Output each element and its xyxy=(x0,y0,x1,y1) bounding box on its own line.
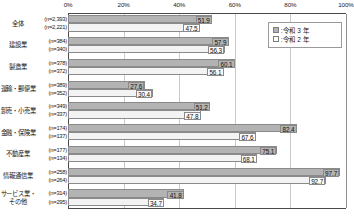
bar[interactable]: 82.4 xyxy=(68,124,297,132)
sample-size-label: (n=134) xyxy=(36,154,67,162)
bar-track: 51.2 xyxy=(68,102,346,110)
legend-item[interactable]: :令和 3 年 xyxy=(273,26,338,35)
bar[interactable]: 60.1 xyxy=(68,59,235,67)
category-label: 卸売・小売業 xyxy=(0,107,36,114)
x-axis-tick-label: 0% xyxy=(64,1,73,8)
sample-size-label: (n=352) xyxy=(36,89,67,97)
sample-size-label: (n=2,221) xyxy=(36,23,67,31)
bar-track: 92.7 xyxy=(68,176,346,184)
sample-size-label: (n=378) xyxy=(36,59,67,67)
bar[interactable]: 92.7 xyxy=(68,176,326,184)
bar-row-group: 運輸・郵便業(n=389)27.6(n=352)30.4 xyxy=(0,78,350,100)
sample-size-label: (n=389) xyxy=(36,81,67,89)
sample-size-label: (n=177) xyxy=(36,146,67,154)
legend-label: 令和 2 年 xyxy=(283,35,308,44)
bar-track: 68.1 xyxy=(68,154,346,162)
bar[interactable]: 97.7 xyxy=(68,168,340,176)
category-label: サービス業・ その他 xyxy=(0,190,36,205)
bar-row-group: 不動産業(n=177)75.1(n=134)68.1 xyxy=(0,143,350,165)
legend-swatch-previous-year xyxy=(273,36,279,42)
legend-swatch-current-year xyxy=(273,27,279,33)
sample-size-label: (n=349) xyxy=(36,102,67,110)
bar-track: 30.4 xyxy=(68,89,346,97)
bar-track: 56.1 xyxy=(68,67,346,75)
x-axis-tick-label: 60% xyxy=(229,1,241,8)
category-label: 金融・保険業 xyxy=(0,129,36,136)
bar[interactable]: 41.8 xyxy=(68,189,184,197)
category-label: 全体 xyxy=(0,20,36,27)
chart-legend: :令和 3 年:令和 2 年 xyxy=(268,22,342,48)
sample-size-label: (n=372) xyxy=(36,67,67,75)
bar-track: 67.6 xyxy=(68,132,346,140)
bar-track: 82.4 xyxy=(68,124,346,132)
sample-size-label: (n=2,393) xyxy=(36,15,67,23)
category-label: 製造業 xyxy=(0,63,36,70)
legend-item[interactable]: :令和 2 年 xyxy=(273,35,338,44)
x-axis-tick-label: 80% xyxy=(284,1,296,8)
bar[interactable]: 68.1 xyxy=(68,154,257,162)
bar[interactable]: 51.2 xyxy=(68,102,210,110)
x-axis-tick-label: 40% xyxy=(173,1,185,8)
legend-label: 令和 3 年 xyxy=(283,26,308,35)
bar-track: 34.7 xyxy=(68,198,346,206)
bar-value-label: 56.1 xyxy=(207,68,223,76)
bar-track: 97.7 xyxy=(68,168,346,176)
sample-size-label: (n=384) xyxy=(36,37,67,45)
category-label: 不動産業 xyxy=(0,150,36,157)
category-label: 運輸・郵便業 xyxy=(0,85,36,92)
bar-value-label: 47.5 xyxy=(183,24,199,32)
bar-value-label: 47.8 xyxy=(184,112,200,120)
x-axis-tick-labels: 0%20%40%60%80%100% xyxy=(0,1,350,12)
bar-row-group: 卸売・小売業(n=349)51.2(n=337)47.8 xyxy=(0,100,350,122)
bar[interactable]: 47.8 xyxy=(68,110,201,118)
bar[interactable]: 57.9 xyxy=(68,37,229,45)
bar[interactable]: 56.1 xyxy=(68,67,224,75)
sample-size-label: (n=337) xyxy=(36,110,67,118)
x-axis-tick-label: 20% xyxy=(118,1,130,8)
bar-track: 75.1 xyxy=(68,146,346,154)
bar-row-group: 情報通信業(n=258)97.7(n=264)92.7 xyxy=(0,165,350,187)
legend-colon: : xyxy=(281,27,283,34)
category-label: 建設業 xyxy=(0,41,36,48)
bar-row-group: 金融・保険業(n=174)82.4(n=137)67.6 xyxy=(0,121,350,143)
category-label: 情報通信業 xyxy=(0,172,36,179)
sample-size-label: (n=295) xyxy=(36,198,67,206)
bar-value-label: 30.4 xyxy=(136,90,152,98)
bar-value-label: 34.7 xyxy=(148,199,164,207)
bar[interactable]: 47.5 xyxy=(68,23,200,31)
bar[interactable]: 67.6 xyxy=(68,132,256,140)
bar-track: 47.8 xyxy=(68,110,346,118)
bar-value-label: 56.3 xyxy=(208,46,224,54)
sample-size-label: (n=264) xyxy=(36,176,67,184)
bar-value-label: 92.7 xyxy=(309,177,325,185)
bar[interactable]: 27.6 xyxy=(68,81,145,89)
bar-row-group: サービス業・ その他(n=314)41.8(n=295)34.7 xyxy=(0,187,350,209)
sample-size-label: (n=314) xyxy=(36,189,67,197)
bar[interactable]: 51.9 xyxy=(68,15,212,23)
bar[interactable]: 56.3 xyxy=(68,45,225,53)
bar-track: 60.1 xyxy=(68,59,346,67)
bar[interactable]: 30.4 xyxy=(68,89,153,97)
sample-size-label: (n=137) xyxy=(36,132,67,140)
bar[interactable]: 75.1 xyxy=(68,146,277,154)
sample-size-label: (n=340) xyxy=(36,45,67,53)
bar-value-label: 68.1 xyxy=(241,155,257,163)
bar-value-label: 67.6 xyxy=(239,133,255,141)
bar[interactable]: 34.7 xyxy=(68,198,164,206)
x-axis-tick-label: 100% xyxy=(338,1,353,8)
sample-size-label: (n=258) xyxy=(36,168,67,176)
sample-size-label: (n=174) xyxy=(36,124,67,132)
legend-colon: : xyxy=(281,36,283,43)
bar-track: 41.8 xyxy=(68,189,346,197)
bar-track: 27.6 xyxy=(68,81,346,89)
bar-row-group: 製造業(n=378)60.1(n=372)56.1 xyxy=(0,56,350,78)
